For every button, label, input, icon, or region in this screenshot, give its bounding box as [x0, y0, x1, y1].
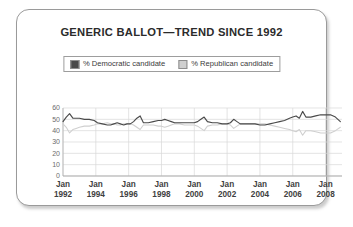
x-axis-tick-month: Jan	[154, 180, 168, 189]
chart-card: GENERIC BALLOT—TREND SINCE 1992 % Democr…	[16, 9, 327, 206]
y-axis-tick-label: 10	[52, 161, 60, 168]
y-axis-tick-label: 30	[52, 138, 60, 145]
x-axis-tick-month: Jan	[187, 180, 201, 189]
x-axis-tick-year: 2000	[185, 190, 204, 199]
screenshot-root: GENERIC BALLOT—TREND SINCE 1992 % Democr…	[0, 0, 353, 227]
x-axis-tick-year: 1992	[54, 190, 73, 199]
x-axis-tick-year: 1996	[120, 190, 139, 199]
legend-label-republican: % Republican candidate	[191, 60, 273, 68]
legend-item-democratic: % Democratic candidate	[70, 60, 165, 69]
y-axis-tick-label: 50	[52, 116, 60, 123]
chart-legend: % Democratic candidate % Republican cand…	[63, 56, 280, 72]
x-axis-tick-month: Jan	[220, 180, 234, 189]
x-axis-tick-month: Jan	[122, 180, 136, 189]
y-axis-tick-label: 0	[56, 172, 60, 179]
legend-swatch-democratic-icon	[70, 60, 79, 69]
x-axis-tick-month: Jan	[286, 180, 300, 189]
y-axis-tick-label: 40	[52, 127, 60, 134]
y-axis-tick-label: 20	[52, 150, 60, 157]
legend-label-democratic: % Democratic candidate	[83, 60, 165, 68]
legend-item-republican: % Republican candidate	[178, 60, 273, 69]
x-axis-tick-year: 1994	[87, 190, 106, 199]
x-axis-tick-year: 1998	[152, 190, 171, 199]
x-axis-tick-year: 2002	[218, 190, 237, 199]
x-axis-tick-year: 2008	[316, 190, 335, 199]
x-axis-tick-year: 2004	[251, 190, 270, 199]
x-axis-tick-month: Jan	[253, 180, 267, 189]
legend-swatch-republican-icon	[178, 60, 187, 69]
plot-area: 0102030405060Jan1992Jan1994Jan1996Jan199…	[45, 106, 345, 204]
x-axis-tick-month: Jan	[56, 180, 70, 189]
y-axis-tick-label: 60	[52, 104, 60, 111]
x-axis-tick-year: 2006	[284, 190, 303, 199]
x-axis-tick-month: Jan	[319, 180, 333, 189]
line-chart-svg: 0102030405060Jan1992Jan1994Jan1996Jan199…	[45, 106, 345, 204]
page-title: GENERIC BALLOT—TREND SINCE 1992	[17, 26, 326, 38]
x-axis-tick-month: Jan	[89, 180, 103, 189]
